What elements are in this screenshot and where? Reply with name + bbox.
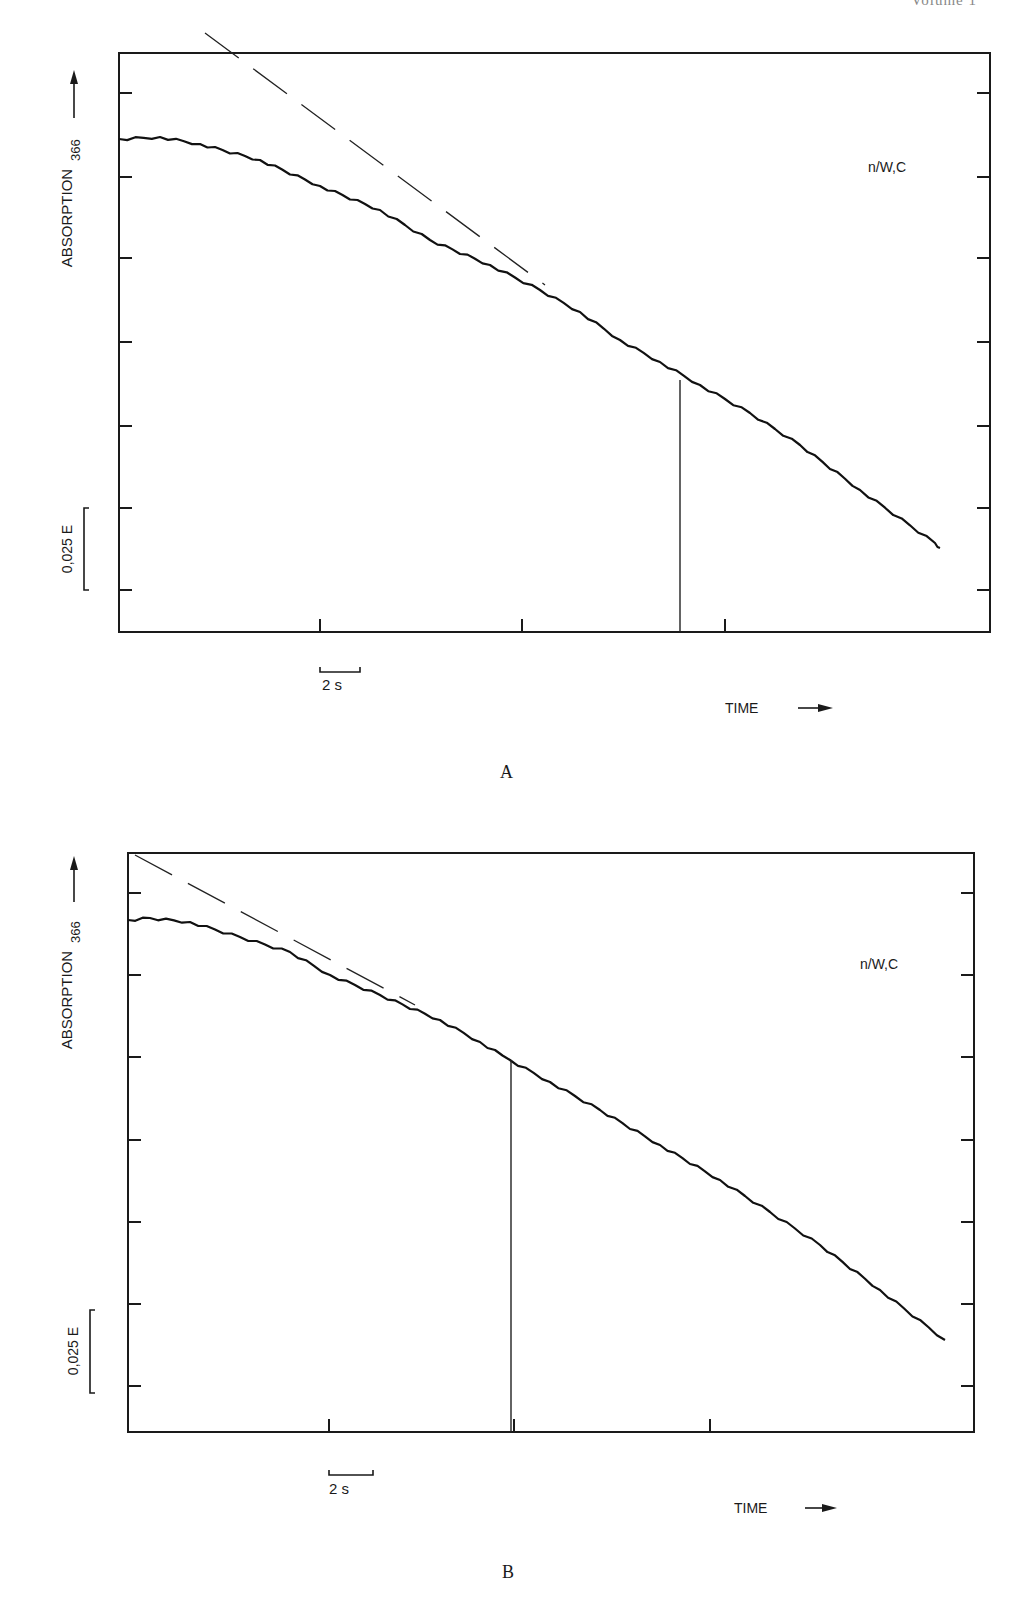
x-scale-bracket <box>329 1470 373 1475</box>
x-axis-label: TIME <box>734 1500 767 1516</box>
plot-border <box>128 853 974 1432</box>
x-axis-arrow-icon <box>805 1504 837 1512</box>
y-axis-label-subscript: 366 <box>68 921 83 943</box>
condition-annotation: n/W,C <box>860 956 898 972</box>
y-ticks <box>128 893 974 1386</box>
y-axis-label-text: ABSORPTION <box>58 951 75 1049</box>
x-scale-label: 2 s <box>329 1480 349 1497</box>
x-scale-bar <box>329 1470 373 1475</box>
chart-panel-b: ABSORPTION 366 0,025 E 2 s TIME n/W,C <box>0 0 1017 1612</box>
dashed-extrapolation-line <box>135 855 415 1005</box>
x-ticks <box>329 1419 710 1432</box>
absorption-trace <box>128 918 945 1340</box>
plot-frame <box>128 853 974 1432</box>
y-scale-label: 0,025 E <box>65 1327 81 1375</box>
panel-label-b: B <box>502 1562 514 1583</box>
y-scale-bracket <box>90 1310 95 1393</box>
y-axis-label: ABSORPTION 366 <box>58 921 83 1049</box>
y-scale-bar <box>90 1310 95 1393</box>
y-axis-arrow-icon <box>70 856 78 902</box>
